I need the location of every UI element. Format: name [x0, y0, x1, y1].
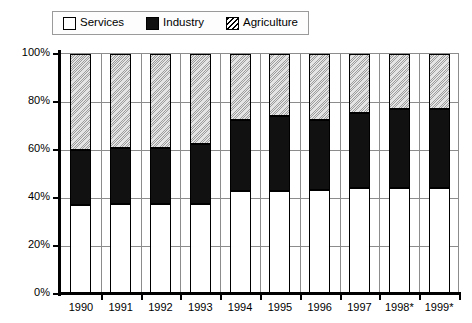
y-axis-line	[58, 50, 61, 296]
y-axis-tick-label: 40%	[2, 191, 50, 202]
y-axis-tick	[53, 197, 59, 199]
bar-segment-services[interactable]	[309, 190, 330, 294]
x-axis-tick-label: 1997	[340, 302, 380, 313]
bar-segment-industry[interactable]	[190, 144, 211, 204]
bar-stack[interactable]	[269, 54, 290, 294]
category-separator	[220, 54, 221, 293]
bar-segment-agriculture[interactable]	[389, 54, 410, 109]
x-axis-tick	[141, 295, 143, 300]
y-axis-labels: 0%20%40%60%80%100%	[0, 0, 50, 323]
y-axis-tick-label: 0%	[2, 287, 50, 298]
bar-segment-industry[interactable]	[429, 109, 450, 188]
y-axis-tick	[53, 293, 59, 295]
black-square-swatch-icon	[146, 17, 159, 30]
bar-segment-services[interactable]	[150, 204, 171, 294]
bar-stack[interactable]	[389, 54, 410, 294]
y-axis-tick	[53, 245, 59, 247]
bar-stack[interactable]	[110, 54, 131, 294]
x-axis-tick-label: 1999*	[419, 302, 459, 313]
bar-segment-agriculture[interactable]	[309, 54, 330, 120]
x-axis-tick	[220, 295, 222, 300]
category-separator	[419, 54, 420, 293]
x-axis-tick-label: 1995	[260, 302, 300, 313]
x-axis-tick	[379, 295, 381, 300]
bar-segment-services[interactable]	[70, 205, 91, 294]
x-axis-tick-label: 1998*	[379, 302, 419, 313]
bar-segment-agriculture[interactable]	[110, 54, 131, 148]
bar-stack[interactable]	[190, 54, 211, 294]
x-axis-tick	[340, 295, 342, 300]
bar-segment-agriculture[interactable]	[190, 54, 211, 144]
bar-segment-industry[interactable]	[230, 120, 251, 191]
category-separator	[260, 54, 261, 293]
bar-segment-services[interactable]	[429, 188, 450, 294]
x-axis-tick	[419, 295, 421, 300]
x-axis-tick-label: 1990	[61, 302, 101, 313]
bar-segment-agriculture[interactable]	[429, 54, 450, 109]
x-axis-tick	[101, 295, 103, 300]
legend-label-services: Services	[80, 17, 124, 29]
x-axis-tick-label: 1992	[141, 302, 181, 313]
y-axis-tick-label: 80%	[2, 95, 50, 106]
y-axis-tick	[53, 53, 59, 55]
bar-stack[interactable]	[230, 54, 251, 294]
bar-segment-services[interactable]	[230, 191, 251, 294]
category-separator	[101, 54, 102, 293]
category-separator	[300, 54, 301, 293]
category-separator	[180, 54, 181, 293]
x-axis-tick-label: 1994	[220, 302, 260, 313]
y-axis-tick-label: 20%	[2, 239, 50, 250]
bar-segment-industry[interactable]	[309, 120, 330, 190]
x-axis-tick	[260, 295, 262, 300]
bar-stack[interactable]	[309, 54, 330, 294]
hatched-square-swatch-icon	[226, 17, 239, 30]
category-separator	[340, 54, 341, 293]
bar-segment-services[interactable]	[269, 191, 290, 294]
bar-segment-services[interactable]	[190, 204, 211, 294]
x-axis-tick-label: 1996	[300, 302, 340, 313]
chart-legend: Services Industry Agriculture	[52, 11, 309, 35]
x-axis-tick-label: 1993	[180, 302, 220, 313]
bar-segment-industry[interactable]	[389, 109, 410, 188]
bar-segment-industry[interactable]	[70, 150, 91, 205]
bar-segment-agriculture[interactable]	[150, 54, 171, 148]
white-square-swatch-icon	[63, 17, 76, 30]
plot-area	[61, 53, 459, 293]
bar-stack[interactable]	[150, 54, 171, 294]
bar-segment-industry[interactable]	[110, 148, 131, 204]
bar-segment-agriculture[interactable]	[70, 54, 91, 150]
bar-stack[interactable]	[70, 54, 91, 294]
x-axis-tick-label: 1991	[101, 302, 141, 313]
bar-segment-services[interactable]	[110, 204, 131, 294]
bar-stack[interactable]	[429, 54, 450, 294]
category-separator	[379, 54, 380, 293]
legend-label-industry: Industry	[163, 17, 204, 29]
legend-item-services: Services	[63, 17, 124, 30]
bar-segment-services[interactable]	[349, 188, 370, 294]
x-axis-tick	[300, 295, 302, 300]
bar-segment-industry[interactable]	[150, 148, 171, 204]
legend-item-agriculture: Agriculture	[226, 17, 298, 30]
bar-stack[interactable]	[349, 54, 370, 294]
y-axis-tick	[53, 101, 59, 103]
bar-segment-services[interactable]	[389, 188, 410, 294]
bar-segment-agriculture[interactable]	[230, 54, 251, 120]
category-separator	[141, 54, 142, 293]
legend-item-industry: Industry	[146, 17, 204, 30]
bar-segment-industry[interactable]	[269, 116, 290, 190]
x-axis-tick	[180, 295, 182, 300]
y-axis-tick-label: 100%	[2, 47, 50, 58]
x-axis-tick	[459, 295, 461, 300]
y-axis-tick	[53, 149, 59, 151]
y-axis-tick-label: 60%	[2, 143, 50, 154]
legend-label-agriculture: Agriculture	[243, 17, 298, 29]
bar-segment-agriculture[interactable]	[269, 54, 290, 116]
bar-segment-industry[interactable]	[349, 113, 370, 189]
bar-segment-agriculture[interactable]	[349, 54, 370, 113]
stacked-bar-chart: Services Industry Agriculture 0%20%40%60…	[0, 0, 472, 323]
